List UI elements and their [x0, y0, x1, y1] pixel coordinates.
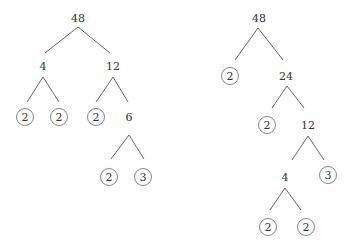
prime-factor-node: 2	[101, 169, 118, 186]
composite-node: 6	[126, 111, 133, 124]
node-value: 6	[126, 111, 133, 124]
tree-edge	[27, 77, 43, 102]
node-value: 2	[106, 171, 113, 184]
node-value: 2	[264, 119, 271, 132]
prime-factor-node: 2	[298, 219, 315, 236]
node-value: 2	[22, 111, 29, 124]
tree-edge	[129, 135, 144, 159]
tree-edge	[272, 86, 287, 108]
tree-edge	[285, 188, 301, 210]
node-value: 48	[71, 12, 85, 25]
tree-edge	[308, 136, 324, 160]
node-value: 48	[252, 12, 266, 25]
composite-node: 24	[279, 70, 293, 83]
tree-edge	[43, 77, 59, 102]
node-value: 2	[93, 111, 100, 124]
composite-node: 12	[106, 60, 120, 73]
prime-factor-node: 2	[222, 68, 239, 85]
prime-factor-node: 2	[259, 117, 276, 134]
tree-edge	[292, 136, 308, 160]
prime-factor-node: 2	[260, 219, 277, 236]
prime-factor-node: 2	[51, 109, 68, 126]
node-value: 12	[301, 119, 315, 132]
node-value: 24	[279, 70, 293, 83]
prime-factor-node: 2	[17, 109, 34, 126]
node-value: 3	[325, 169, 332, 182]
node-value: 2	[56, 111, 63, 124]
tree-edge	[287, 86, 304, 108]
tree-edge	[78, 27, 110, 53]
composite-node: 4	[40, 60, 47, 73]
node-value: 3	[140, 171, 147, 184]
tree-edge	[270, 188, 285, 210]
tree-edge	[113, 77, 128, 102]
node-value: 2	[303, 221, 310, 234]
prime-factor-node: 3	[135, 169, 152, 186]
tree-edge	[258, 28, 283, 60]
node-value: 12	[106, 60, 120, 73]
composite-node: 48	[71, 12, 85, 25]
factor-tree-left: 48412222623	[17, 12, 152, 186]
factor-tree-diagram: 48412222623482242124322	[0, 0, 349, 249]
composite-node: 12	[301, 119, 315, 132]
tree-edge	[45, 27, 78, 53]
node-value: 4	[40, 60, 47, 73]
prime-factor-node: 3	[320, 167, 337, 184]
tree-edge	[235, 28, 258, 60]
factor-tree-right: 482242124322	[222, 12, 337, 236]
node-value: 2	[265, 221, 272, 234]
node-value: 4	[282, 171, 289, 184]
prime-factor-node: 2	[88, 109, 105, 126]
tree-edge	[111, 135, 129, 159]
composite-node: 48	[252, 12, 266, 25]
tree-edge	[96, 77, 113, 102]
composite-node: 4	[282, 171, 289, 184]
node-value: 2	[227, 70, 234, 83]
